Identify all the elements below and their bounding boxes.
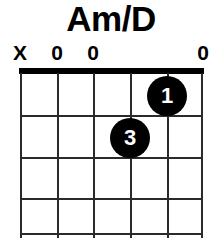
string-markers-row: X000 [0,41,222,67]
string-marker-6: 0 [191,41,215,65]
string-line-3 [93,73,95,238]
string-line-2 [57,73,59,238]
fret-line-1 [20,115,203,117]
finger-dot-3: 3 [110,118,150,158]
fret-line-3 [20,198,203,200]
chord-diagram-card: Am/D X000 13 [0,0,222,248]
finger-dot-1: 1 [147,76,187,116]
string-line-6 [201,73,203,238]
nut-bar [19,68,204,74]
fret-line-4 [20,233,203,235]
chord-name-title: Am/D [0,0,222,38]
string-marker-3: 0 [81,41,105,65]
fretboard-grid: 13 [20,68,203,238]
string-marker-1: X [8,41,32,65]
string-marker-2: 0 [45,41,69,65]
string-line-1 [20,73,22,238]
fret-line-2 [20,157,203,159]
